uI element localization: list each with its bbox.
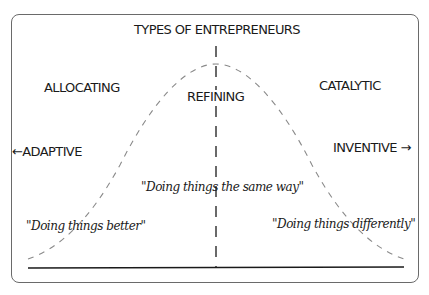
- axis-label-inventive: INVENTIVE →: [333, 141, 411, 154]
- label-catalytic: CATALYTIC: [319, 79, 381, 92]
- axis-label-adaptive: ←ADAPTIVE: [12, 145, 82, 158]
- label-allocating: ALLOCATING: [44, 81, 120, 94]
- label-refining: REFINING: [186, 90, 245, 103]
- diagram-title: TYPES OF ENTREPRENEURS: [134, 23, 300, 36]
- quote-better: "Doing things better": [26, 220, 145, 232]
- quote-same-way: "Doing things the same way": [141, 181, 304, 193]
- quote-differently: "Doing things differently": [272, 218, 415, 230]
- baseline: [28, 267, 404, 268]
